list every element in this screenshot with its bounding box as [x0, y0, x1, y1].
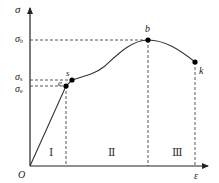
region-3-label: Ⅲ [172, 147, 183, 158]
point-s-label: s [66, 69, 70, 78]
y-axis-label: σ [15, 4, 20, 15]
point-e [63, 83, 68, 88]
point-k-label: k [199, 66, 203, 76]
region-1-label: Ⅰ [49, 147, 53, 158]
point-b-label: b [145, 24, 150, 34]
x-axis-label: ε [194, 171, 198, 181]
point-k [192, 59, 197, 64]
sigma-e-label: σe [15, 84, 23, 94]
sigma-s-label: σs [15, 72, 22, 82]
sigma-b-label: σb [15, 34, 23, 44]
point-s [69, 77, 74, 82]
region-2-label: Ⅱ [108, 147, 115, 158]
point-b [145, 37, 150, 42]
point-e-label: e [58, 79, 62, 88]
origin-label: O [18, 170, 25, 180]
